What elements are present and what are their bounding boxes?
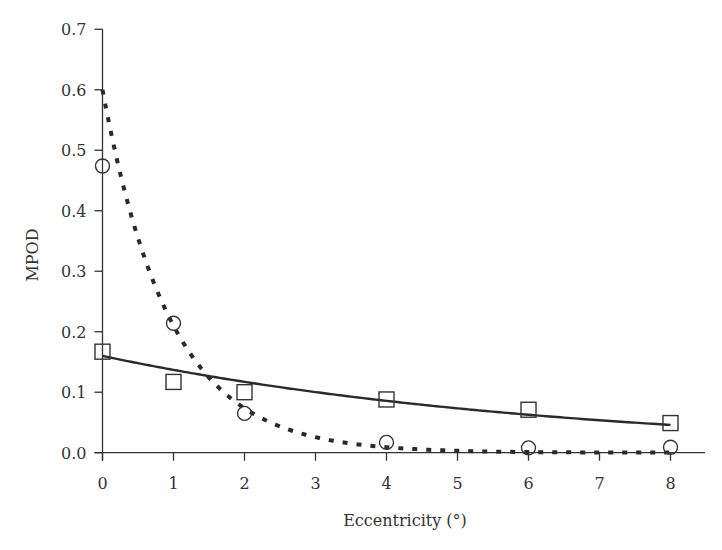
x-tick-label: 1 [168,474,178,493]
squares-fit-line [103,356,671,425]
square-marker [166,374,181,389]
x-tick-label: 8 [665,474,675,493]
y-tick-label: 0.2 [61,323,86,342]
y-tick-label: 0.1 [61,383,86,402]
square-marker [237,385,252,400]
x-tick-label: 6 [523,474,533,493]
x-tick-label: 0 [97,474,107,493]
x-tick-label: 5 [452,474,462,493]
y-tick-label: 0.0 [61,444,86,463]
circle-marker [167,316,181,330]
y-axis-title: MPOD [23,228,42,281]
chart: 0.00.10.20.30.40.50.60.7012345678 Eccent… [0,0,722,550]
data-markers [95,159,678,455]
y-tick-label: 0.5 [61,141,86,160]
y-tick-label: 0.3 [61,262,86,281]
square-marker [663,416,678,431]
y-tick-label: 0.4 [61,202,86,221]
circles-fit-line [103,90,671,453]
fit-lines [103,90,671,453]
x-tick-label: 3 [310,474,320,493]
x-axis-title: Eccentricity (°) [343,511,467,530]
x-tick-label: 7 [594,474,604,493]
x-tick-label: 2 [239,474,249,493]
y-tick-label: 0.6 [61,81,86,100]
y-tick-label: 0.7 [61,20,86,39]
x-tick-label: 4 [381,474,391,493]
